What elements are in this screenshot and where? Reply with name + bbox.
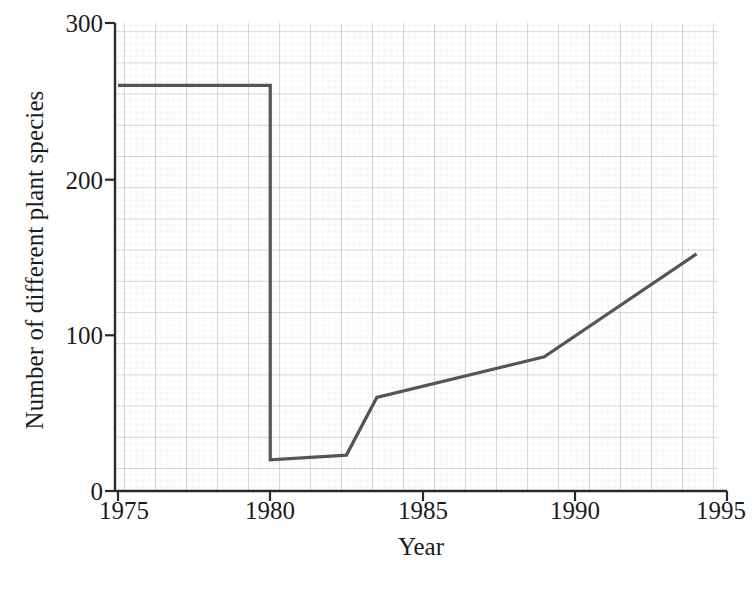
chart-gridlines	[115, 23, 718, 491]
y-axis-ticks	[105, 23, 115, 491]
y-tick-label-300: 300	[66, 11, 111, 36]
x-tick-label-1995: 1995	[696, 497, 746, 525]
x-tick-label-1985: 1985	[398, 497, 448, 525]
x-axis-title: Year	[115, 533, 727, 561]
x-tick-label-1975: 1975	[99, 497, 149, 525]
y-tick-label-200: 200	[66, 168, 111, 193]
y-tick-label-100: 100	[66, 323, 111, 348]
x-tick-label-1990: 1990	[550, 497, 600, 525]
y-axis-title: Number of different plant species	[21, 40, 49, 480]
chart-container: 300 200 100 0 1975 1980 1985 1990 1995 N…	[0, 0, 755, 590]
x-tick-label-1980: 1980	[245, 497, 295, 525]
